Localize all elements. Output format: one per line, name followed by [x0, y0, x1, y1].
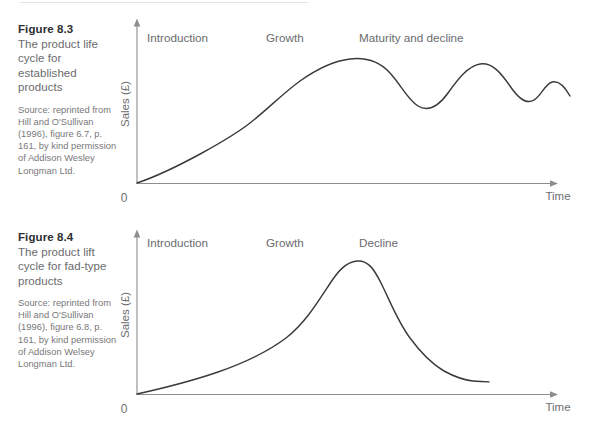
- figure-8-3-source: Source: reprinted from Hill and O'Sulliv…: [18, 104, 122, 177]
- stage-label-decline-chart-2: Decline: [359, 236, 398, 249]
- figure-8-3-description: The product life cycle for established p…: [18, 37, 122, 95]
- x-axis: [137, 180, 558, 187]
- figure-8-3-number: Figure 8.3: [18, 22, 122, 37]
- x-axis-label-chart-2: Time: [545, 401, 570, 413]
- figure-8-3-chart: Sales (£) 0 Time Introduction Growth Mat…: [118, 10, 588, 206]
- figure-8-4-number: Figure 8.4: [18, 230, 122, 245]
- figure-8-4-source: Source: reprinted from Hill and O'Sulliv…: [18, 297, 122, 370]
- figure-8-4-description: The product lift cycle for fad-type prod…: [18, 245, 122, 289]
- product-life-cycle-curve: [137, 59, 570, 183]
- stage-label-introduction-chart-1: Introduction: [147, 31, 208, 44]
- stage-label-maturity-decline-chart-1: Maturity and decline: [359, 31, 464, 44]
- stage-label-introduction-chart-2: Introduction: [147, 236, 208, 249]
- stage-label-growth-chart-2: Growth: [266, 236, 304, 249]
- figure-8-3-caption: Figure 8.3 The product life cycle for es…: [18, 22, 122, 177]
- y-axis: [134, 19, 141, 184]
- origin-label-chart-2: 0: [121, 402, 128, 416]
- x-axis-label-chart-1: Time: [545, 190, 570, 202]
- stage-label-growth-chart-1: Growth: [266, 31, 304, 44]
- origin-label-chart-1: 0: [121, 191, 128, 205]
- x-axis: [137, 391, 558, 398]
- page-top-rule: [20, 2, 308, 3]
- y-axis-label-chart-2: Sales (£): [119, 292, 131, 338]
- fad-life-cycle-curve: [137, 261, 489, 394]
- figure-page: Figure 8.3 The product life cycle for es…: [0, 0, 592, 432]
- y-axis-label-chart-1: Sales (£): [119, 81, 131, 127]
- y-axis: [134, 230, 141, 395]
- figure-8-4-caption: Figure 8.4 The product lift cycle for fa…: [18, 230, 122, 370]
- figure-8-4-chart: Sales (£) 0 Time Introduction Growth Dec…: [118, 221, 588, 421]
